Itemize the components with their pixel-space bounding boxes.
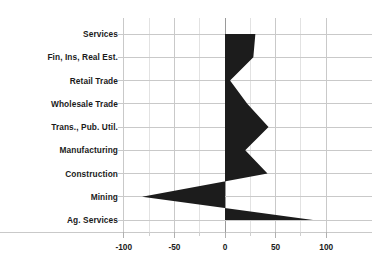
chart-container: ServicesFin, Ins, Real Est.Retail TradeW… [0,0,376,273]
x-tick-label-50: 50 [271,242,280,252]
x-tick-label-neg50: -50 [168,242,180,252]
x-tick-label-0: 0 [223,242,228,252]
value-axis-labels: -100-50050100 [0,0,376,273]
x-tick-label-100: 100 [319,242,333,252]
x-tick-label-neg100: -100 [115,242,132,252]
